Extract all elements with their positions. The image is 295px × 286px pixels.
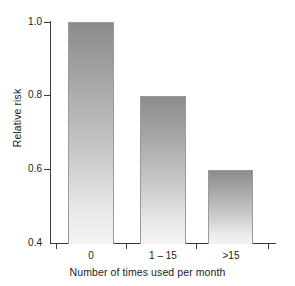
x-tick-mark-1	[126, 244, 127, 249]
y-tick-mark-3	[44, 169, 50, 170]
bar-category-2	[208, 170, 253, 244]
y-tick-label-4: 0.4	[2, 238, 42, 248]
x-tick-mark-right	[268, 244, 269, 249]
y-tick-label-2: 0.8	[2, 90, 42, 100]
x-tick-mark-left	[56, 244, 57, 249]
bar-category-1	[140, 96, 186, 244]
y-axis-title: Relative risk	[11, 63, 23, 173]
x-tick-label-2: >15	[196, 251, 266, 261]
x-tick-mark-2	[196, 244, 197, 249]
bar-category-0	[68, 22, 114, 244]
x-tick-label-1: 1 – 15	[128, 251, 198, 261]
y-axis-line	[50, 21, 51, 244]
x-axis-title: Number of times used per month	[0, 266, 295, 278]
y-tick-mark-1	[44, 22, 50, 23]
y-tick-label-3: 0.6	[2, 164, 42, 174]
y-tick-label-1: 1.0	[2, 17, 42, 27]
x-tick-label-0: 0	[56, 251, 126, 261]
y-tick-mark-2	[44, 95, 50, 96]
relative-risk-bar-chart: Relative risk 1.0 0.8 0.6 0.4 0 1 – 15 >…	[0, 0, 295, 286]
